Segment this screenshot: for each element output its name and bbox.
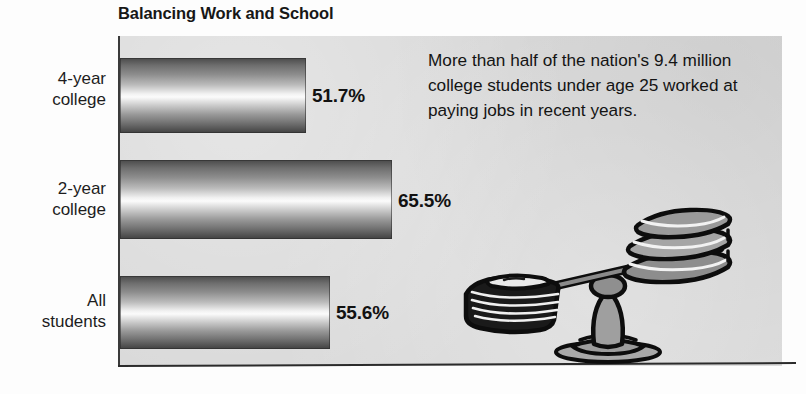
category-label-all-students: All students <box>8 290 106 332</box>
bar-value-4-year-college: 51.7% <box>312 85 365 107</box>
category-label-line1: All <box>8 290 106 311</box>
bar-value-2-year-college: 65.5% <box>398 190 451 212</box>
category-label-line2: students <box>8 311 106 332</box>
category-label-2-year-college: 2-year college <box>8 178 106 220</box>
category-label-line1: 4-year <box>8 68 106 89</box>
category-label-line2: college <box>8 199 106 220</box>
category-label-line1: 2-year <box>8 178 106 199</box>
bar-2-year-college <box>120 160 392 239</box>
page-title: Balancing Work and School <box>118 4 333 23</box>
bar-4-year-college <box>120 58 306 133</box>
bar-value-all-students: 55.6% <box>336 302 389 324</box>
bar-all-students <box>120 276 330 349</box>
seesaw-balance-illustration <box>448 176 748 366</box>
category-label-4-year-college: 4-year college <box>8 68 106 110</box>
annotation-text: More than half of the nation's 9.4 milli… <box>428 48 758 123</box>
category-label-line2: college <box>8 89 106 110</box>
chart-page: Balancing Work and School 4-year college… <box>0 0 806 394</box>
